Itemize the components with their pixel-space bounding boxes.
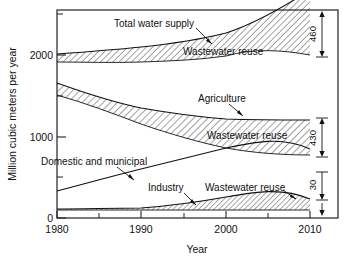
chart-container: 2000 1000 0 1980 1990 2000 2010 Year Mil… xyxy=(0,0,350,261)
y-axis-title: Million cubic meters per year xyxy=(6,47,18,181)
label-wastewater-reuse-agriculture: Wastewater reuse xyxy=(207,130,288,141)
label-agriculture: Agriculture xyxy=(198,93,246,104)
x-tick-label-1980: 1980 xyxy=(45,223,69,235)
label-wastewater-reuse-industry: Wastewater reuse xyxy=(205,182,286,193)
bracket-label-460: 460 xyxy=(307,26,318,42)
y-tick-label-2000: 2000 xyxy=(30,49,54,61)
y-tick-label-1000: 1000 xyxy=(30,131,54,143)
x-tick-label-1990: 1990 xyxy=(129,223,153,235)
label-total-water-supply: Total water supply xyxy=(114,18,194,29)
bracket-label-430: 430 xyxy=(307,130,318,146)
label-industry: Industry xyxy=(148,182,184,193)
x-tick-label-2000: 2000 xyxy=(214,223,238,235)
x-tick-label-2010: 2010 xyxy=(298,223,322,235)
bracket-label-30: 30 xyxy=(307,180,318,191)
label-wastewater-reuse-supply: Wastewater reuse xyxy=(183,46,264,57)
x-axis-title: Year xyxy=(186,243,208,255)
label-domestic-and-municipal: Domestic and municipal xyxy=(41,156,147,167)
